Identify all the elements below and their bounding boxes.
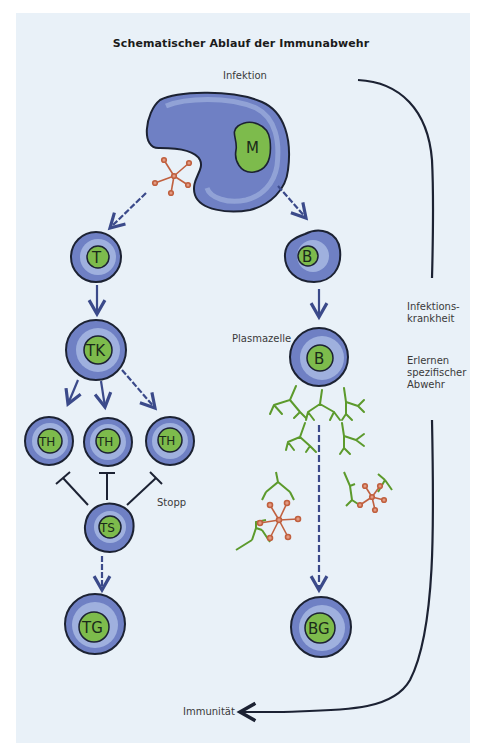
arrow-tk-to-th1	[68, 380, 78, 404]
antibodies	[270, 386, 364, 454]
t-cell: T	[71, 232, 121, 282]
arrow-macrophage-to-b	[278, 186, 306, 218]
t-helper-2-label: TH	[96, 435, 113, 449]
t-suppressor-label: TS	[99, 521, 115, 535]
feedback-arrow-top	[358, 80, 433, 278]
b-cell: B	[285, 231, 340, 282]
t-suppressor-cell: TS	[85, 504, 134, 552]
plasma-cell: B	[290, 328, 348, 386]
label-plasmazelle: Plasmazelle	[232, 333, 291, 345]
t-helper-3-label: TH	[158, 434, 175, 448]
antigen-antibody-complex-left	[236, 472, 301, 550]
label-erlernen-spezifischer-abwehr: Erlernen spezifischer Abwehr	[407, 355, 466, 391]
t-memory-label: TG	[81, 619, 103, 637]
arrow-macrophage-to-t	[110, 193, 146, 228]
t-helper-cell-2: TH	[84, 418, 132, 466]
label-infektionskrankheit: Infektions- krankheit	[407, 301, 460, 325]
arrow-tk-to-th2	[101, 381, 105, 407]
arrow-tk-to-th3	[122, 370, 155, 408]
t-helper-cell-3: TH	[146, 417, 194, 465]
b-cell-label: B	[302, 248, 312, 266]
label-stopp: Stopp	[157, 497, 186, 509]
t-cell-label: T	[91, 249, 102, 267]
t-helper-1-label: TH	[38, 435, 55, 449]
antigen-icon	[153, 158, 192, 196]
t-killer-cell: TK	[66, 320, 126, 380]
t-killer-label: TK	[85, 342, 106, 360]
feedback-arrow-bottom	[240, 420, 433, 712]
b-memory-label: BG	[308, 620, 330, 638]
inhibition-lines	[56, 472, 162, 505]
t-memory-cell: TG	[65, 594, 125, 654]
plasma-cell-label: B	[314, 350, 324, 368]
antigen-antibody-complex-right	[344, 472, 392, 512]
b-memory-cell: BG	[291, 597, 351, 657]
label-infektion: Infektion	[223, 70, 267, 82]
label-immunitaet: Immunität	[183, 706, 235, 718]
t-helper-cell-1: TH	[25, 417, 73, 465]
macrophage-label: M	[246, 139, 259, 157]
